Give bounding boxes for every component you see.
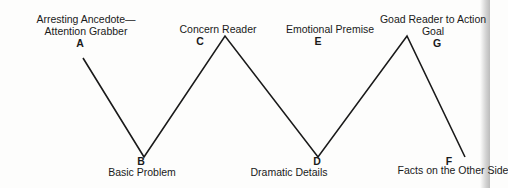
point-c-marker: C (196, 36, 204, 47)
label-line: Facts on the Other Side (398, 164, 508, 176)
label-line: Goal (380, 25, 486, 37)
label-line: Basic Problem (108, 166, 176, 178)
label-line: Goad Reader to Action (380, 13, 486, 25)
zigzag-line (83, 36, 465, 157)
label-line: Concern Reader (179, 23, 256, 35)
label-goad-reader: Goad Reader to Action Goal (380, 13, 486, 37)
label-line: Arresting Ancedote— (36, 13, 135, 25)
label-line: Attention Grabber (36, 25, 135, 37)
label-dramatic-details: Dramatic Details (250, 166, 327, 178)
label-line: Dramatic Details (250, 166, 327, 178)
label-attention-grabber: Arresting Ancedote— Attention Grabber (36, 13, 135, 37)
point-a-marker: A (76, 38, 84, 49)
point-g-marker: G (433, 38, 441, 49)
label-facts-other-side: Facts on the Other Side (398, 164, 508, 176)
label-concern-reader: Concern Reader (179, 23, 256, 35)
label-line: Emotional Premise (286, 23, 374, 35)
label-emotional-premise: Emotional Premise (286, 23, 374, 35)
point-e-marker: E (314, 36, 321, 47)
label-basic-problem: Basic Problem (108, 166, 176, 178)
